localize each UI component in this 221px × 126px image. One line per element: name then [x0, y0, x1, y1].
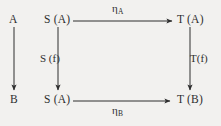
edge-label-s-f: S (f)	[40, 53, 60, 64]
eta-symbol-b: η	[112, 104, 118, 116]
eta-symbol-a: η	[112, 2, 118, 14]
commutative-diagram: A B S (A) S (A) T (A) T (B) ηA ηB S (f) …	[0, 0, 221, 126]
eta-subscript-b: B	[118, 109, 123, 118]
node-label-a: A	[9, 14, 18, 26]
edge-label-eta-b: ηB	[112, 105, 123, 116]
node-label-s-of-a-bottom: S (A)	[44, 94, 70, 106]
edge-label-eta-a: ηA	[112, 3, 123, 14]
edge-label-t-f: T(f)	[190, 53, 208, 64]
eta-subscript-a: A	[118, 7, 123, 16]
node-label-s-of-a-top: S (A)	[44, 14, 70, 26]
node-label-t-of-a: T (A)	[177, 14, 204, 26]
node-label-t-of-b: T (B)	[177, 94, 203, 106]
node-label-b: B	[10, 94, 18, 106]
